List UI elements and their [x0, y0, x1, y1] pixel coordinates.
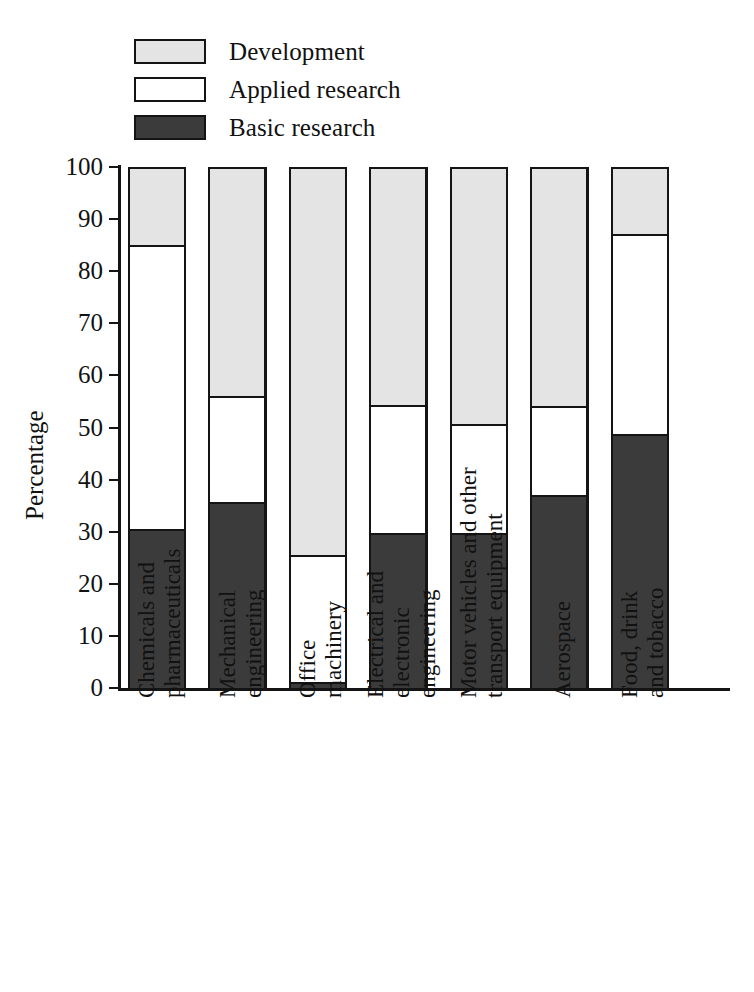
segment-applied-research-3: [369, 405, 427, 536]
y-tick-90: 90: [109, 218, 118, 220]
y-tick-70: 70: [109, 322, 118, 324]
y-tick-80: 80: [109, 270, 118, 272]
category-label-4-line-0: Motor vehicles and other: [456, 467, 482, 698]
y-tick-label-20: 20: [43, 570, 103, 595]
category-label-4-line-1: transport equipment: [482, 467, 508, 698]
y-axis-line: [118, 165, 121, 690]
segment-development-6: [611, 167, 669, 237]
category-label-6: Food, drinkand tobacco: [617, 588, 669, 698]
y-tick-label-10: 10: [43, 622, 103, 647]
category-label-1-line-0: Mechanical: [215, 589, 241, 698]
y-tick-label-0: 0: [43, 675, 103, 700]
category-label-6-line-0: Food, drink: [617, 588, 643, 698]
category-label-6-line-1: and tobacco: [643, 588, 669, 698]
y-tick-0: 0: [109, 687, 118, 689]
legend-swatch-applied-research: [134, 77, 206, 102]
y-tick-label-70: 70: [43, 310, 103, 335]
y-tick-50: 50: [109, 427, 118, 429]
legend-swatch-basic-research: [134, 115, 206, 140]
y-tick-100: 100: [109, 166, 118, 168]
segment-development-5: [530, 167, 588, 409]
segment-applied-research-1: [208, 396, 266, 504]
segment-development-2: [289, 167, 347, 558]
y-tick-label-100: 100: [43, 154, 103, 179]
y-tick-label-50: 50: [43, 414, 103, 439]
category-label-0-line-1: pharmaceuticals: [160, 549, 186, 698]
legend-label-applied-research: Applied research: [229, 77, 401, 102]
chart-legend: Development Applied research Basic resea…: [134, 34, 554, 148]
category-label-1-line-1: engineering: [241, 589, 267, 698]
category-label-3-line-0: Electrical and: [363, 571, 389, 698]
legend-item-applied-research: Applied research: [134, 72, 554, 106]
legend-swatch-development: [134, 39, 206, 64]
y-tick-30: 30: [109, 531, 118, 533]
category-label-0: Chemicals andpharmaceuticals: [134, 549, 186, 698]
legend-item-basic-research: Basic research: [134, 110, 554, 144]
y-tick-40: 40: [109, 479, 118, 481]
segment-development-0: [128, 167, 186, 248]
segment-development-3: [369, 167, 427, 408]
segment-development-1: [208, 167, 266, 399]
legend-label-basic-research: Basic research: [229, 115, 375, 140]
category-label-3-line-1: electronic: [389, 571, 415, 698]
category-label-2-line-1: machinery: [321, 601, 347, 698]
category-label-0-line-0: Chemicals and: [134, 549, 160, 698]
y-tick-label-60: 60: [43, 362, 103, 387]
y-tick-label-90: 90: [43, 206, 103, 231]
y-tick-10: 10: [109, 635, 118, 637]
stacked-bar-chart: Development Applied research Basic resea…: [0, 0, 754, 992]
category-label-2-line-0: Office: [295, 601, 321, 698]
category-label-3: Electrical andelectronicengineering: [363, 571, 441, 698]
legend-label-development: Development: [229, 39, 365, 64]
y-tick-label-40: 40: [43, 466, 103, 491]
y-tick-20: 20: [109, 583, 118, 585]
segment-applied-research-5: [530, 406, 588, 497]
segment-applied-research-6: [611, 234, 669, 436]
y-tick-label-80: 80: [43, 258, 103, 283]
category-label-3-line-2: engineering: [415, 571, 441, 698]
category-label-1: Mechanicalengineering: [215, 589, 267, 698]
category-label-5-line-0: Aerospace: [550, 601, 576, 698]
category-label-4: Motor vehicles and othertransport equipm…: [456, 467, 508, 698]
segment-development-4: [450, 167, 508, 427]
segment-applied-research-0: [128, 245, 186, 531]
category-label-5: Aerospace: [550, 601, 576, 698]
category-label-2: Officemachinery: [295, 601, 347, 698]
y-tick-60: 60: [109, 374, 118, 376]
y-tick-label-30: 30: [43, 518, 103, 543]
legend-item-development: Development: [134, 34, 554, 68]
